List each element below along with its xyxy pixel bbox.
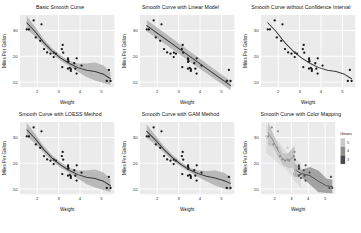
svg-text:4: 4 [79,89,82,94]
svg-text:30: 30 [13,28,18,33]
svg-text:20: 20 [13,54,18,59]
svg-text:30: 30 [133,28,138,33]
svg-text:2: 2 [156,89,159,94]
plot-area: 1020302345WeightMiles Per GallonGears345 [241,118,361,214]
svg-text:4: 4 [199,196,202,201]
panel-title: Smooth Curve with Linear Model [120,3,240,11]
svg-text:3: 3 [298,89,301,94]
svg-text:Weight: Weight [180,100,195,105]
svg-text:2: 2 [36,89,39,94]
svg-text:Weight: Weight [60,100,75,105]
svg-text:5: 5 [221,89,224,94]
svg-text:2: 2 [273,196,276,201]
panel-title: Smooth Curve with GAM Method [120,110,240,118]
svg-text:30: 30 [13,135,18,140]
svg-text:4: 4 [347,150,349,154]
panel-title: Basic Smooth Curve [0,3,120,11]
chart-panel-6: Smooth Curve with Color Mapping102030234… [241,107,361,214]
svg-text:10: 10 [254,80,259,85]
svg-text:Miles Per Gallon: Miles Per Gallon [122,34,127,68]
svg-text:3: 3 [290,196,293,201]
svg-text:Weight: Weight [60,208,75,213]
svg-text:10: 10 [13,187,18,192]
plot-area: 1020302345WeightMiles Per Gallon [120,118,240,214]
svg-text:4: 4 [199,89,202,94]
svg-text:Miles Per Gallon: Miles Per Gallon [122,141,127,175]
svg-text:5: 5 [341,89,344,94]
svg-text:20: 20 [13,161,18,166]
chart-panel-2: Smooth Curve with Linear Model1020302345… [120,0,240,107]
plot-area: 1020302345WeightMiles Per Gallon [0,118,120,214]
svg-text:5: 5 [324,196,327,201]
svg-text:2: 2 [156,196,159,201]
svg-text:Miles Per Gallon: Miles Per Gallon [2,141,7,175]
svg-text:10: 10 [133,80,138,85]
plot-area: 1020302345WeightMiles Per Gallon [241,11,361,107]
svg-text:10: 10 [13,80,18,85]
svg-text:3: 3 [347,158,349,162]
chart-panel-4: Smooth Curve with LOESS Method1020302345… [0,107,120,214]
svg-text:3: 3 [57,89,60,94]
svg-text:20: 20 [254,54,259,59]
panel-title: Smooth Curve with Color Mapping [241,110,361,118]
svg-text:3: 3 [57,196,60,201]
svg-text:Miles Per Gallon: Miles Per Gallon [242,34,247,68]
svg-text:10: 10 [133,187,138,192]
chart-panel-5: Smooth Curve with GAM Method1020302345We… [120,107,240,214]
svg-text:Weight: Weight [180,208,195,213]
svg-text:20: 20 [133,161,138,166]
svg-text:4: 4 [79,196,82,201]
svg-text:30: 30 [254,28,259,33]
svg-text:10: 10 [254,187,259,192]
svg-text:4: 4 [307,196,310,201]
plot-grid: Basic Smooth Curve1020302345WeightMiles … [0,0,361,213]
svg-text:Gears: Gears [340,131,351,136]
svg-text:30: 30 [133,135,138,140]
chart-panel-3: Smooth Curve without Confidence Interval… [241,0,361,107]
svg-text:20: 20 [133,54,138,59]
panel-title: Smooth Curve with LOESS Method [0,110,120,118]
svg-text:Weight: Weight [291,208,306,213]
svg-text:20: 20 [254,161,259,166]
panel-title: Smooth Curve without Confidence Interval [241,3,361,11]
svg-text:5: 5 [221,196,224,201]
svg-text:5: 5 [347,141,349,145]
svg-text:3: 3 [178,196,181,201]
svg-text:Weight: Weight [301,100,316,105]
chart-panel-1: Basic Smooth Curve1020302345WeightMiles … [0,0,120,107]
svg-text:Miles Per Gallon: Miles Per Gallon [2,34,7,68]
figure-caption [0,213,361,233]
svg-text:Miles Per Gallon: Miles Per Gallon [242,141,247,175]
svg-text:5: 5 [100,89,103,94]
svg-text:4: 4 [320,89,323,94]
svg-text:3: 3 [178,89,181,94]
svg-text:5: 5 [100,196,103,201]
plot-area: 1020302345WeightMiles Per Gallon [0,11,120,107]
plot-area: 1020302345WeightMiles Per Gallon [120,11,240,107]
svg-text:2: 2 [36,196,39,201]
svg-text:30: 30 [254,135,259,140]
svg-text:2: 2 [277,89,280,94]
